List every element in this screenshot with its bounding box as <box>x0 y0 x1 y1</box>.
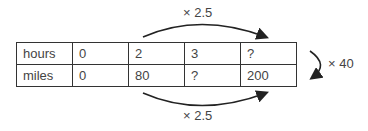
right-multiplier-label: × 40 <box>328 56 354 71</box>
cell: 200 <box>241 65 297 87</box>
table-row-miles: miles 0 80 ? 200 <box>17 65 297 87</box>
cell: 80 <box>129 65 185 87</box>
cell: 3 <box>185 43 241 65</box>
bottom-multiplier-label: × 2.5 <box>183 108 212 123</box>
table-row-hours: hours 0 2 3 ? <box>17 43 297 65</box>
top-arrow <box>143 25 266 38</box>
bottom-arrow <box>143 93 266 106</box>
cell: 2 <box>129 43 185 65</box>
cell: 0 <box>73 43 129 65</box>
right-arrow <box>310 51 321 78</box>
cell: 0 <box>73 65 129 87</box>
row-label: miles <box>17 65 73 87</box>
top-multiplier-label: × 2.5 <box>183 5 212 20</box>
row-label: hours <box>17 43 73 65</box>
cell: ? <box>241 43 297 65</box>
ratio-table: hours 0 2 3 ? miles 0 80 ? 200 <box>16 42 297 87</box>
cell: ? <box>185 65 241 87</box>
